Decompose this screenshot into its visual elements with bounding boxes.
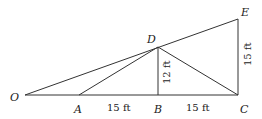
point-label-b: B [153, 103, 162, 116]
point-label-e: E [240, 6, 249, 19]
geometry-diagram: O A B C D E 15 ft 15 ft 12 ft 15 ft [0, 0, 262, 119]
point-label-o: O [10, 91, 19, 104]
dimension-ab: 15 ft [107, 102, 131, 113]
dimension-ec: 15 ft [242, 42, 253, 66]
segment-oe [25, 19, 238, 95]
point-label-c: C [240, 103, 249, 116]
point-label-d: D [146, 33, 156, 46]
dimension-db: 12 ft [161, 60, 172, 84]
point-label-a: A [73, 103, 82, 116]
dimension-bc: 15 ft [186, 102, 210, 113]
